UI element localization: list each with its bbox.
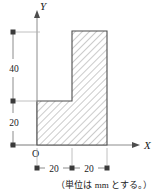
l-shape-region [37,31,107,145]
dim-dot-top [11,30,16,35]
dimension-label-upper-height: 40 [9,64,19,74]
dim-dot-right [105,166,110,171]
dim-dot-bottom [11,143,16,148]
dimension-label-left-width: 20 [49,164,59,174]
dim-dot-center [70,166,75,171]
x-axis-label: X [143,139,152,151]
figure-container: Y X O 40 20 [0,0,157,193]
dim-dot-left [35,166,40,171]
vertical-dimension-line: 40 20 [7,30,21,148]
origin-label: O [32,148,39,159]
unit-caption: （単位は mm とする。） [56,179,152,190]
x-axis-arrow-icon [132,142,140,148]
y-axis-label: Y [40,0,48,12]
dimension-label-lower-height: 20 [9,118,19,128]
coordinate-diagram: Y X O 40 20 [0,0,157,193]
dim-dot-mid [11,99,16,104]
dimension-label-right-width: 20 [84,164,94,174]
